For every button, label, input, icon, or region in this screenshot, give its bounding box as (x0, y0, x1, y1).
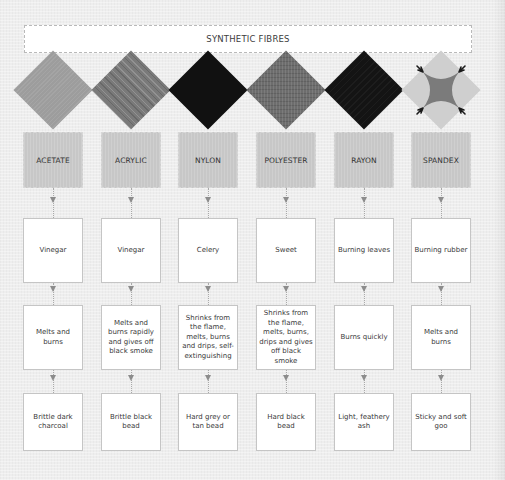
arrow-down-icon (50, 375, 56, 381)
burn-behaviour-box: Melts and burns (23, 305, 83, 370)
page-edge-shadow (493, 0, 505, 480)
fibre-column-acrylic: ACRYLIC Vinegar Melts and burns rapidly … (101, 0, 161, 480)
residue-box: Light, feathery ash (334, 393, 394, 451)
swatch-acrylic (91, 50, 171, 130)
fibre-column-nylon: NYLON Celery Shrinks from the flame, mel… (178, 0, 238, 480)
connector-line (131, 188, 132, 218)
fabric-swatch-icon (246, 50, 325, 129)
arrow-down-icon (283, 286, 289, 292)
burn-behaviour-box: Shrinks from the flame, melts, burns and… (178, 305, 238, 370)
fibre-name-label: SPANDEX (411, 132, 471, 188)
arrow-down-icon (128, 286, 134, 292)
swatch-rayon (324, 50, 404, 130)
arrow-down-icon (361, 375, 367, 381)
connector-line (131, 370, 132, 393)
fabric-swatch-icon (13, 50, 92, 129)
fibre-name-label: ACETATE (23, 132, 83, 188)
arrow-down-icon (438, 197, 444, 203)
smell-box: Burning leaves (334, 218, 394, 283)
smell-box: Celery (178, 218, 238, 283)
fabric-swatch-icon (324, 50, 403, 129)
connector-line (364, 370, 365, 393)
swatch-spandex (401, 50, 481, 130)
arrow-down-icon (361, 197, 367, 203)
arrow-down-icon (205, 197, 211, 203)
burn-behaviour-box: Burns quickly (334, 305, 394, 370)
arrow-down-icon (283, 375, 289, 381)
fibre-column-spandex: SPANDEX Burning rubber Melts and burns S… (411, 0, 471, 480)
arrow-down-icon (361, 286, 367, 292)
connector-line (441, 188, 442, 218)
arrow-down-icon (283, 197, 289, 203)
fibre-column-polyester: POLYESTER Sweet Shrinks from the flame, … (256, 0, 316, 480)
fabric-swatch-icon (168, 50, 247, 129)
fibre-column-acetate: ACETATE Vinegar Melts and burns Brittle … (23, 0, 83, 480)
arrow-down-icon (128, 375, 134, 381)
residue-box: Hard black bead (256, 393, 316, 451)
smell-box: Vinegar (101, 218, 161, 283)
arrow-down-icon (205, 286, 211, 292)
arrow-down-icon (50, 286, 56, 292)
connector-line (286, 370, 287, 393)
connector-line (441, 370, 442, 393)
connector-line (53, 188, 54, 218)
diagram-title: SYNTHETIC FIBRES (24, 25, 472, 53)
smell-box: Burning rubber (411, 218, 471, 283)
connector-line (286, 188, 287, 218)
arrow-down-icon (438, 375, 444, 381)
residue-box: Brittle dark charcoal (23, 393, 83, 451)
connector-line (208, 370, 209, 393)
arrow-down-icon (128, 197, 134, 203)
residue-box: Hard grey or tan bead (178, 393, 238, 451)
burn-behaviour-box: Melts and burns (411, 305, 471, 370)
residue-box: Sticky and soft goo (411, 393, 471, 451)
burn-behaviour-box: Shrinks from the flame, melts, burns, dr… (256, 305, 316, 370)
swatch-nylon (168, 50, 248, 130)
stretched-fabric-icon (401, 50, 481, 130)
fibre-name-label: NYLON (178, 132, 238, 188)
arrow-down-icon (50, 197, 56, 203)
connector-line (53, 370, 54, 393)
fibre-name-label: POLYESTER (256, 132, 316, 188)
arrow-down-icon (438, 286, 444, 292)
fibre-name-label: RAYON (334, 132, 394, 188)
swatch-polyester (246, 50, 326, 130)
burn-behaviour-box: Melts and burns rapidly and gives off bl… (101, 305, 161, 370)
connector-line (208, 188, 209, 218)
connector-line (364, 188, 365, 218)
fibre-name-label: ACRYLIC (101, 132, 161, 188)
smell-box: Sweet (256, 218, 316, 283)
residue-box: Brittle black bead (101, 393, 161, 451)
fibre-column-rayon: RAYON Burning leaves Burns quickly Light… (334, 0, 394, 480)
arrow-down-icon (205, 375, 211, 381)
smell-box: Vinegar (23, 218, 83, 283)
fabric-swatch-icon (91, 50, 170, 129)
swatch-acetate (13, 50, 93, 130)
